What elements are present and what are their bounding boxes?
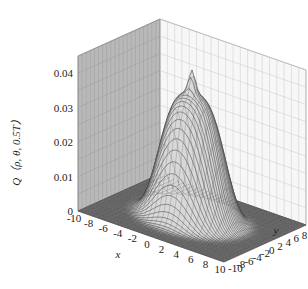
- z-tick-label: 0.03: [54, 102, 74, 114]
- surface-plot: -10-8-6-4-20246810-10-8-6-4-2024681000.0…: [0, 0, 308, 289]
- z-tick-label: 0.04: [54, 67, 74, 79]
- x-tick-label: 6: [188, 253, 194, 265]
- x-tick-label: 10: [215, 263, 227, 275]
- x-tick-label: -2: [128, 232, 137, 244]
- x-tick-label: -8: [84, 217, 94, 229]
- x-axis-label: x: [115, 248, 121, 260]
- x-tick-label: 8: [203, 258, 209, 270]
- x-tick-label: 4: [173, 248, 179, 260]
- y-tick-label: 8: [302, 229, 308, 241]
- y-tick-label: 2: [277, 240, 283, 252]
- y-tick-label: 4: [285, 236, 291, 248]
- x-tick-label: -6: [99, 222, 109, 234]
- y-axis-label: y: [273, 224, 279, 236]
- z-axis-label: Q（ρ, θ, 0.5T）: [10, 114, 22, 186]
- x-tick-label: 2: [159, 243, 165, 255]
- y-tick-label: 6: [294, 232, 300, 244]
- z-tick-label: 0.01: [54, 171, 73, 183]
- y-tick-label: 0: [269, 244, 275, 256]
- z-tick-label: 0: [68, 205, 74, 217]
- x-tick-label: -4: [113, 227, 123, 239]
- x-tick-label: 0: [144, 238, 150, 250]
- z-tick-label: 0.02: [54, 136, 73, 148]
